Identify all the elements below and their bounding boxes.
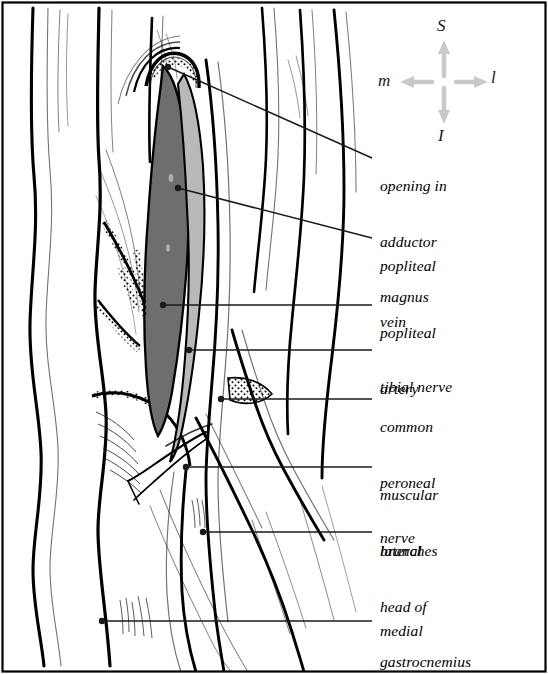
label-line: opening in (380, 177, 447, 196)
dot-muscular-branches (183, 464, 189, 470)
compass-lateral-label: l (491, 68, 496, 88)
label-medial-head-of-gastrocnemius: medial head of gastrocnemius (380, 585, 471, 674)
dot-common-peroneal-nerve (218, 396, 224, 402)
label-line: popliteal (380, 257, 436, 276)
dot-opening-in-adductor-magnus (165, 64, 171, 70)
dot-medial-head-gastrocnemius (99, 618, 105, 624)
dot-lateral-head-gastrocnemius (200, 529, 206, 535)
compass-superior-label: S (437, 16, 446, 36)
label-line: medial (380, 622, 471, 641)
anatomy-figure: S I m l opening in adductor magnus popli… (0, 0, 548, 674)
dot-tibial-nerve (186, 347, 192, 353)
label-line: common (380, 418, 435, 437)
dot-popliteal-artery (160, 302, 166, 308)
dot-popliteal-vein (175, 185, 181, 191)
compass-medial-label: m (378, 71, 390, 91)
label-line: muscular (380, 486, 439, 505)
label-line: popliteal (380, 324, 436, 343)
label-line: lateral (380, 542, 471, 561)
